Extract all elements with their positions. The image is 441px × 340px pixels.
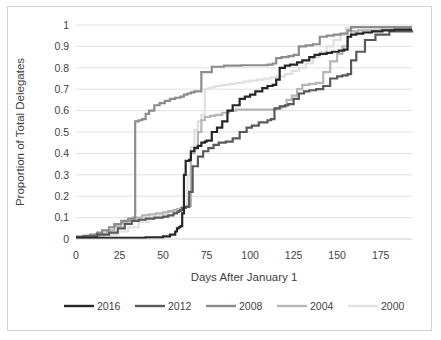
y-tick-label-0: 0 bbox=[63, 233, 69, 245]
legend-label-2000: 2000 bbox=[381, 300, 405, 312]
x-tick-label-7: 175 bbox=[372, 249, 390, 261]
y-axis-title: Proportion of Total Delegates bbox=[14, 58, 26, 206]
x-tick-label-0: 0 bbox=[73, 249, 79, 261]
x-tick-label-1: 25 bbox=[114, 249, 126, 261]
y-tick-label-8: 0.8 bbox=[54, 62, 69, 74]
y-tick-label-9: 0.9 bbox=[54, 40, 69, 52]
y-tick-label-6: 0.6 bbox=[54, 104, 69, 116]
y-tick-label-7: 0.7 bbox=[54, 83, 69, 95]
x-tick-label-4: 100 bbox=[241, 249, 259, 261]
legend-label-2008: 2008 bbox=[239, 300, 263, 312]
x-axis-title: Days After January 1 bbox=[191, 271, 298, 283]
y-tick-label-2: 0.2 bbox=[54, 190, 69, 202]
chart-canvas: 00.10.20.30.40.50.60.70.80.9102550751001… bbox=[8, 7, 431, 330]
series-line-2012 bbox=[76, 30, 412, 237]
y-tick-labels: 00.10.20.30.40.50.60.70.80.91 bbox=[54, 19, 69, 245]
y-tick-label-3: 0.3 bbox=[54, 169, 69, 181]
legend: 20162012200820042000 bbox=[64, 300, 405, 312]
x-tick-labels: 0255075100125150175 bbox=[73, 249, 389, 261]
series-line-2016 bbox=[76, 30, 412, 238]
legend-label-2012: 2012 bbox=[168, 300, 192, 312]
x-tick-label-5: 125 bbox=[285, 249, 303, 261]
y-tick-label-10: 1 bbox=[63, 19, 69, 31]
legend-label-2016: 2016 bbox=[97, 300, 121, 312]
x-tick-label-6: 150 bbox=[328, 249, 346, 261]
series-line-2004 bbox=[76, 30, 412, 237]
chart-plot-frame: 00.10.20.30.40.50.60.70.80.9102550751001… bbox=[7, 6, 432, 331]
x-tick-label-2: 50 bbox=[157, 249, 169, 261]
x-tick-label-3: 75 bbox=[201, 249, 213, 261]
y-tick-label-4: 0.4 bbox=[54, 147, 69, 159]
series-group bbox=[76, 27, 412, 238]
legend-label-2004: 2004 bbox=[310, 300, 334, 312]
chart-figure: 00.10.20.30.40.50.60.70.80.9102550751001… bbox=[0, 0, 441, 340]
y-tick-label-5: 0.5 bbox=[54, 126, 69, 138]
y-tick-label-1: 0.1 bbox=[54, 211, 69, 223]
